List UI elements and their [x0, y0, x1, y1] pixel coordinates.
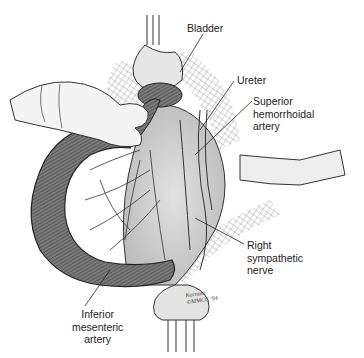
label-inferior-mesenteric-artery: Inferior mesenteric artery: [72, 308, 123, 346]
label-bladder: Bladder: [187, 22, 223, 35]
anatomical-illustration: [0, 0, 364, 358]
label-superior-hemorrhoidal-artery: Superior hemorrhoidal artery: [253, 95, 314, 133]
label-ureter: Ureter: [237, 74, 266, 87]
retractor-blade: [240, 150, 345, 185]
label-right-sympathetic-nerve: Right sympathetic nerve: [247, 239, 303, 277]
bladder-structure: [133, 15, 183, 107]
